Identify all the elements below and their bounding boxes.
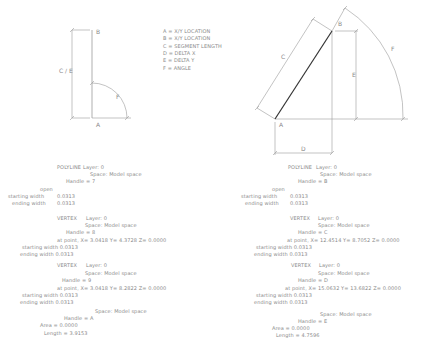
vertex-starting-width: starting width 0.0313 — [256, 292, 312, 298]
right-angle-arc — [345, 8, 403, 119]
space: Space: Model space — [90, 171, 142, 177]
handle: Handle = 7 — [66, 178, 95, 184]
vertex-layer: Layer: 0 — [86, 262, 107, 268]
right-label-d: D — [301, 146, 306, 152]
layer: Layer: 0 — [83, 164, 104, 170]
footer-space: Space: Model space — [320, 311, 372, 317]
footer-space: Space: Model space — [95, 308, 147, 314]
vertex-starting-width: starting width 0.0313 — [22, 292, 78, 298]
right-dim-line-c — [257, 19, 313, 108]
vertex-point: at point, X= 3.0418 Y= 4.3728 Z= 0.0000 — [57, 237, 166, 243]
vertex-ending-width: ending width 0.0313 — [20, 251, 74, 257]
vertex-entity: VERTEX — [291, 262, 311, 268]
legend-item: C = SEGMENT LENGTH — [163, 43, 222, 49]
footer-handle: Handle = E — [298, 318, 327, 324]
vertex-space: Space: Model space — [85, 270, 137, 276]
footer-area: Area = 0.0000 — [40, 322, 78, 328]
left-label-f: F — [116, 94, 119, 100]
right-label-c: C — [281, 54, 285, 60]
vertex-point: at point, X= 3.0418 Y= 8.2822 Z= 0.0000 — [57, 285, 166, 291]
ending-width-value: 0.0313 — [290, 200, 308, 206]
vertex-space: Space: Model space — [318, 270, 370, 276]
ending-width-label: ending width — [245, 200, 279, 206]
vertex-point: at point, X= 12.4514 Y= 8.7052 Z= 0.0000 — [287, 237, 400, 243]
legend-item: D = DELTA X — [163, 50, 196, 56]
footer-length: Length = 3.9153 — [44, 330, 88, 336]
footer-length: Length = 4.7596 — [276, 332, 320, 338]
entity-type: POLYLINE — [288, 164, 312, 170]
vertex-starting-width: starting width 0.0313 — [22, 244, 78, 250]
left-label-ce: C / E — [59, 68, 73, 74]
vertex-starting-width: starting width 0.0313 — [256, 244, 312, 250]
vertex-handle: Handle = C — [298, 229, 328, 235]
starting-width-label: starting width — [241, 193, 277, 199]
entity-type: POLYLINE — [57, 164, 81, 170]
starting-width-value: 0.0313 — [57, 193, 75, 199]
right-label-e: E — [352, 72, 356, 78]
ending-width-value: 0.0313 — [57, 200, 75, 206]
vertex-layer: Layer: 0 — [318, 215, 339, 221]
legend-item: F = ANGLE — [163, 65, 191, 71]
vertex-entity: VERTEX — [290, 215, 310, 221]
legend-item: B = X/Y LOCATION — [163, 35, 210, 41]
starting-width-label: starting width — [8, 193, 44, 199]
vertex-entity: VERTEX — [57, 215, 77, 221]
left-angle-arc — [92, 83, 127, 118]
right-label-f: F — [391, 46, 394, 52]
left-label-b: B — [96, 29, 100, 35]
vertex-handle: Handle = 9 — [62, 277, 91, 283]
right-label-b: B — [338, 21, 342, 27]
vertex-handle: Handle = D — [298, 277, 328, 283]
vertex-layer: Layer: 0 — [86, 215, 107, 221]
vertex-ending-width: ending width 0.0313 — [20, 299, 74, 305]
open-status: open — [40, 186, 53, 192]
open-status: open — [272, 186, 285, 192]
vertex-space: Space: Model space — [85, 222, 137, 228]
vertex-entity: VERTEX — [57, 262, 77, 268]
space: Space: Model space — [320, 171, 372, 177]
left-label-a: A — [96, 122, 100, 128]
vertex-layer: Layer: 0 — [319, 262, 340, 268]
vertex-handle: Handle = 8 — [66, 229, 95, 235]
vertex-ending-width: ending width 0.0313 — [254, 299, 308, 305]
ending-width-label: ending width — [12, 200, 46, 206]
legend-item: E = DELTA Y — [163, 57, 194, 63]
right-label-a: A — [279, 122, 283, 128]
footer-handle: Handle = A — [64, 315, 93, 321]
legend-item: A = X/Y LOCATION — [163, 28, 210, 34]
vertex-ending-width: ending width 0.0313 — [254, 251, 308, 257]
layer: Layer: 0 — [316, 164, 337, 170]
vertex-point: at point, X= 15.0632 Y= 13.6822 Z= 0.000… — [285, 285, 401, 291]
right-segment-thick-line — [275, 31, 332, 119]
starting-width-value: 0.0313 — [290, 193, 308, 199]
vertex-space: Space: Model space — [318, 222, 370, 228]
handle: Handle = B — [298, 178, 327, 184]
footer-area: Area = 0.0000 — [272, 325, 310, 331]
